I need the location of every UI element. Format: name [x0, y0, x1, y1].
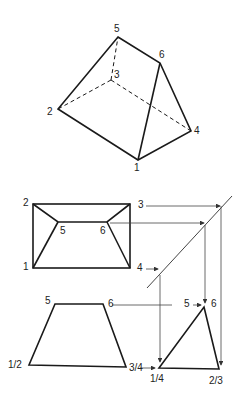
iso-label-5: 5 — [114, 24, 120, 34]
top-label-4: 4 — [137, 263, 143, 273]
iso-label-3: 3 — [114, 70, 120, 80]
top-label-5: 5 — [60, 226, 66, 236]
front-label-5: 5 — [45, 296, 51, 306]
top-view — [33, 204, 130, 268]
projection-diagram — [0, 0, 242, 403]
top-label-2: 2 — [23, 198, 29, 208]
front-label-12: 1/2 — [8, 360, 22, 370]
projection-lines — [110, 196, 232, 368]
iso-label-1: 1 — [134, 163, 140, 173]
top-label-3: 3 — [138, 200, 144, 210]
side-label-5: 5 — [184, 299, 190, 309]
side-label-14: 1/4 — [150, 374, 164, 384]
front-view — [29, 304, 126, 367]
iso-label-2: 2 — [47, 107, 53, 117]
front-label-6: 6 — [108, 299, 114, 309]
side-label-23: 2/3 — [209, 376, 223, 386]
iso-label-4: 4 — [194, 126, 200, 136]
top-label-6: 6 — [100, 226, 106, 236]
side-label-6: 6 — [211, 299, 217, 309]
isometric-view — [58, 37, 191, 160]
iso-label-6: 6 — [159, 50, 165, 60]
front-label-34: 3/4 — [129, 363, 143, 373]
side-view — [159, 307, 219, 369]
top-label-1: 1 — [23, 262, 29, 272]
